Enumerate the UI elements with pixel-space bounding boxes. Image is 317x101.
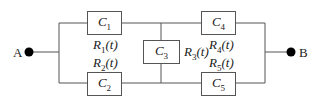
component-c2: C2 <box>87 72 122 96</box>
component-c1-label: C1 <box>98 14 111 32</box>
reliability-r2-label: R2(t) <box>93 56 118 73</box>
component-c5-label: C5 <box>212 75 225 93</box>
terminal-a-label: A <box>13 46 22 59</box>
terminal-a-dot <box>25 48 34 57</box>
reliability-r5-label: R5(t) <box>209 56 234 73</box>
component-c1: C1 <box>87 11 122 35</box>
terminal-b-dot <box>287 48 296 57</box>
component-c2-label: C2 <box>98 75 111 93</box>
component-c4: C4 <box>201 11 236 35</box>
component-c4-label: C4 <box>212 14 225 32</box>
component-c5: C5 <box>201 72 236 96</box>
reliability-r4-label: R4(t) <box>209 38 234 55</box>
reliability-r3-label: R3(t) <box>184 45 209 62</box>
component-c3: C3 <box>143 40 180 64</box>
reliability-r1-label: R1(t) <box>93 38 118 55</box>
component-c3-label: C3 <box>155 43 168 61</box>
terminal-b-label: B <box>299 46 308 59</box>
